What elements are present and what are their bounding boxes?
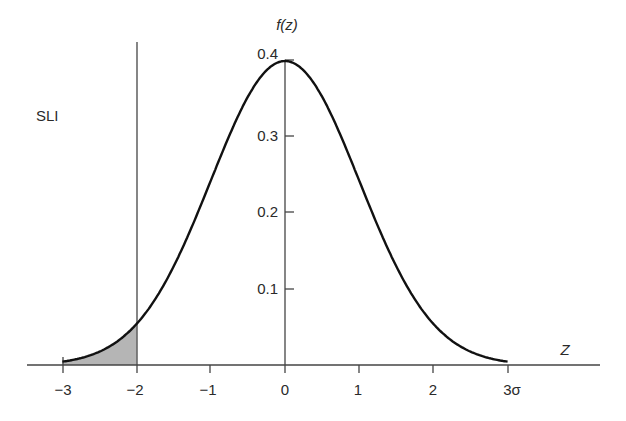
x-tick-label: 3σ [503, 381, 521, 398]
y-tick-label: 0.1 [257, 280, 278, 297]
y-ticks [285, 60, 294, 289]
x-tick-label: 2 [429, 381, 437, 398]
x-tick-label: −1 [199, 381, 216, 398]
normal-distribution-chart: −3 −2 −1 0 1 2 3σ 0.1 0.2 0.3 0.4 f(z) Z… [0, 0, 626, 421]
y-axis-title: f(z) [276, 16, 298, 33]
y-tick-label: 0.4 [257, 45, 278, 62]
sli-label: SLI [36, 107, 59, 124]
y-tick-label: 0.3 [257, 127, 278, 144]
x-tick-label: −2 [126, 381, 143, 398]
x-tick-label: −3 [54, 381, 71, 398]
x-tick-label: 0 [281, 381, 289, 398]
y-tick-label: 0.2 [257, 203, 278, 220]
x-tick-label: 1 [354, 381, 362, 398]
x-axis-title: Z [559, 341, 570, 358]
